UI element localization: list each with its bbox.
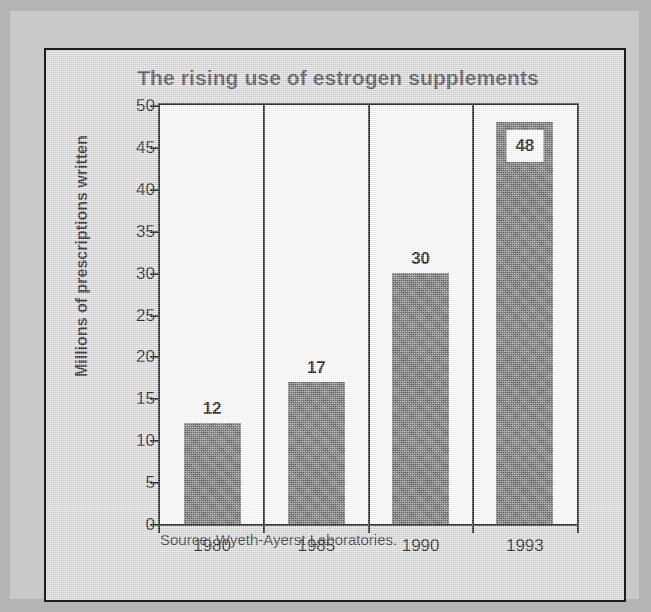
y-tick-mark [150,482,160,484]
bar-1993[interactable]: 48 [496,122,553,524]
bar-value-label-1990: 30 [411,249,430,269]
y-tick-mark [150,231,160,233]
y-tick-mark [150,398,160,400]
bar-value-label-1980: 12 [203,399,222,419]
bar-value-label-1993: 48 [506,130,543,162]
chart-frame: The rising use of estrogen supplements M… [44,48,626,602]
figure-root: The rising use of estrogen supplements M… [0,0,651,612]
y-axis-title: Millions of prescriptions written [73,157,91,377]
category-divider [263,105,265,524]
plot-area: 05101520253035404550 12173048 1980198519… [158,103,579,526]
x-tick-mark [577,524,579,533]
chart-title: The rising use of estrogen supplements [66,66,610,90]
bar-value-label-1985: 17 [307,358,326,378]
y-tick-mark [150,440,160,442]
y-tick-mark [150,273,160,275]
bar-1985[interactable]: 17 [288,382,345,524]
x-axis-label-1993: 1993 [506,536,544,556]
x-tick-mark [158,524,160,533]
category-divider [472,105,474,524]
y-tick-mark [150,147,160,149]
y-tick-mark [150,105,160,107]
x-tick-mark [368,524,370,533]
x-tick-mark [472,524,474,533]
x-axis-label-1980: 1980 [193,536,231,556]
y-tick-mark [150,189,160,191]
y-tick-mark [150,315,160,317]
y-tick-mark [150,356,160,358]
x-axis-label-1990: 1990 [402,536,440,556]
x-tick-mark [263,524,265,533]
bar-1980[interactable]: 12 [184,423,241,524]
category-divider [368,105,370,524]
bar-1990[interactable]: 30 [392,273,449,524]
figure-mat: The rising use of estrogen supplements M… [10,11,639,599]
x-axis-label-1985: 1985 [297,536,335,556]
